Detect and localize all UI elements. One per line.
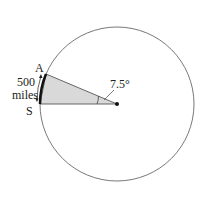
- angle-leader-line: [104, 90, 114, 100]
- angle-label: 7.5°: [110, 78, 130, 90]
- point-s-label: S: [26, 105, 33, 117]
- arc-length-value: 500: [17, 76, 35, 88]
- center-dot: [115, 102, 119, 106]
- shaded-sector: [40, 74, 117, 104]
- arc-length-unit: miles: [12, 89, 38, 101]
- point-a-label: A: [35, 62, 44, 74]
